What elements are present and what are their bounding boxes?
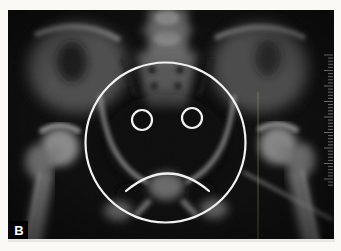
figure-panel: B	[0, 0, 341, 251]
film-grain	[8, 10, 334, 239]
photo-edge-shadow	[8, 239, 335, 242]
radiograph-image: B	[0, 0, 341, 251]
xray-film: B	[8, 8, 334, 248]
panel-label: B	[10, 221, 28, 239]
panel-label-text: B	[14, 223, 23, 238]
